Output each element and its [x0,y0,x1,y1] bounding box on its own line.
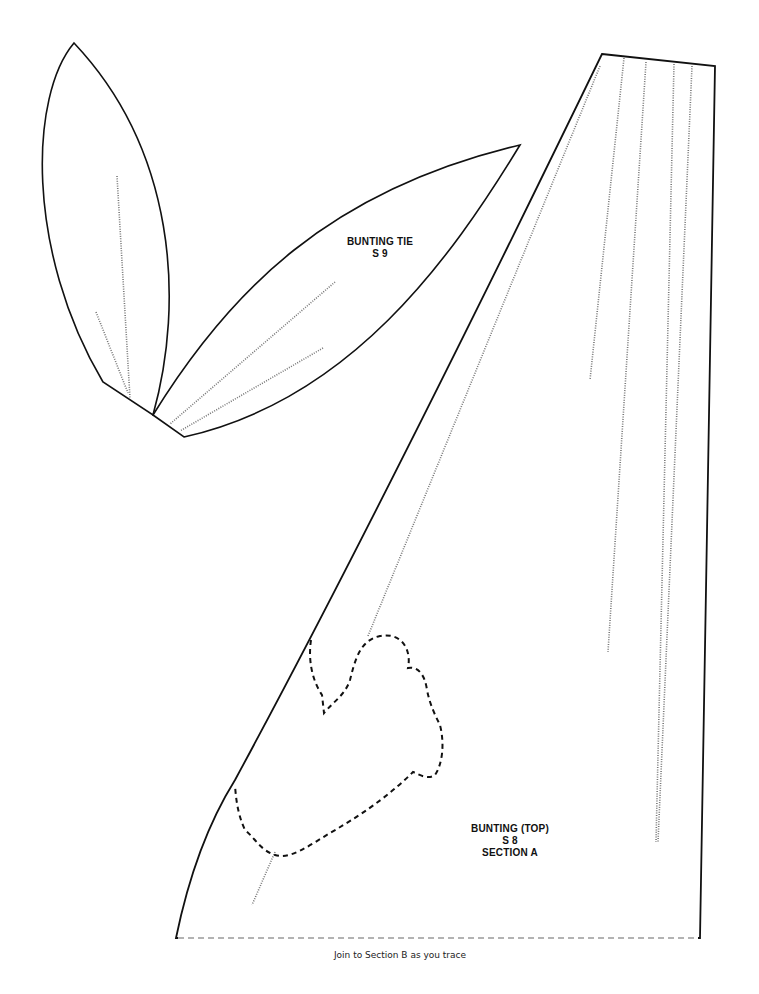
bunting-top-outline [176,54,715,938]
pattern-drawing [0,0,759,994]
bunting-top-title: BUNTING (TOP) [460,823,560,835]
bunting-top-label: BUNTING (TOP) S 8 SECTION A [460,823,560,859]
bunting-tie-label: BUNTING TIE S 9 [340,236,420,260]
bunting-grainlines [252,58,692,905]
tie-grainlines [96,176,335,431]
tie-left-leaf-outline [42,43,169,415]
bunting-top-code: S 8 [460,835,560,847]
tie-right-leaf-outline [153,145,520,437]
pattern-page: BUNTING TIE S 9 BUNTING (TOP) S 8 SECTIO… [0,0,759,994]
placement-dashed-outline [235,635,442,856]
join-instruction: Join to Section B as you trace [300,950,500,960]
bunting-top-section: SECTION A [460,847,560,859]
bunting-tie-code: S 9 [340,248,420,260]
bunting-tie-title: BUNTING TIE [340,236,420,248]
